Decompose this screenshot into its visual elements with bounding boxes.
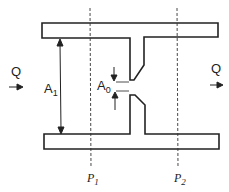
pipe-area-label: A1 bbox=[44, 81, 58, 98]
orifice-meter-diagram: Q Q A1 A0 P1 P2 bbox=[0, 0, 229, 192]
top-pipe-wall bbox=[42, 23, 218, 80]
pressure-tap-label-1: P1 bbox=[86, 171, 99, 187]
bottom-pipe-wall bbox=[44, 95, 219, 149]
pressure-tap-label-2: P2 bbox=[173, 171, 186, 187]
outlet-flow-label: Q bbox=[211, 61, 221, 76]
inlet-flow-arrow-icon bbox=[9, 84, 23, 90]
pressure-tap-line-2 bbox=[177, 8, 178, 168]
outlet-flow-arrow-icon bbox=[210, 82, 223, 88]
orifice-area-arrows bbox=[111, 67, 129, 110]
orifice-area-label: A0 bbox=[97, 78, 111, 95]
pipe-area-dimension-arrow bbox=[57, 39, 64, 134]
inlet-flow-label: Q bbox=[11, 64, 21, 79]
pressure-tap-line-1 bbox=[90, 8, 91, 168]
